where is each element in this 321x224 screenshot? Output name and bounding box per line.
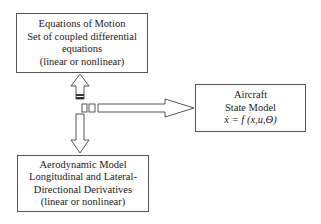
arrow-right-icon: [98, 99, 194, 117]
eom-line-2: Set of coupled differential: [27, 31, 137, 44]
aero-line-3: Directional Derivatives: [34, 184, 132, 197]
eom-title: Equations of Motion: [39, 18, 126, 31]
state-line-2: State Model: [225, 102, 276, 115]
aero-line-4: (linear or nonlinear): [41, 196, 126, 209]
aerodynamic-model-box: Aerodynamic Model Longitudinal and Later…: [17, 155, 149, 212]
aero-title: Aerodynamic Model: [39, 159, 126, 172]
eom-line-3: equations: [62, 43, 102, 56]
state-title: Aircraft: [234, 89, 267, 102]
aero-line-2: Longitudinal and Lateral-: [29, 171, 137, 184]
arrow-down-icon: [71, 114, 89, 153]
arrow-up-icon: [71, 74, 89, 99]
junction-squares: [82, 104, 95, 112]
aircraft-state-model-box: Aircraft State Model ẋ = f (x,u,Θ): [195, 84, 306, 132]
eom-line-4: (linear or nonlinear): [40, 56, 125, 69]
equations-of-motion-box: Equations of Motion Set of coupled diffe…: [16, 13, 148, 73]
state-equation: ẋ = f (x,u,Θ): [224, 114, 276, 127]
